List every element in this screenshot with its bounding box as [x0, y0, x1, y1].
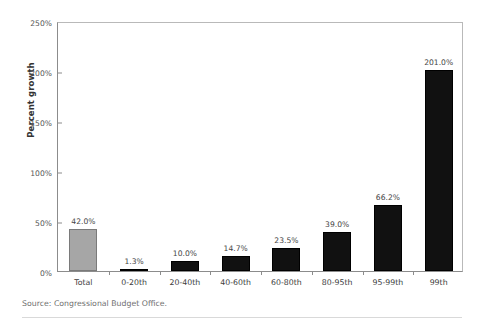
- x-tick-label: 60-80th: [271, 278, 302, 287]
- x-tick-label: 80-95th: [322, 278, 353, 287]
- bar-80-95th[interactable]: 39.0%: [323, 232, 351, 271]
- y-axis-title: Percent growth: [26, 40, 36, 160]
- bar-value-label: 39.0%: [325, 220, 349, 229]
- x-tick-label: Total: [74, 278, 92, 287]
- bottom-divider: [22, 317, 462, 318]
- bar-95-99th[interactable]: 66.2%: [374, 205, 402, 271]
- bar-20-40th[interactable]: 10.0%: [171, 261, 199, 271]
- source-note: Source: Congressional Budget Office.: [22, 299, 167, 308]
- x-tick-label: 99th: [430, 278, 448, 287]
- bar-60-80th[interactable]: 23.5%: [272, 248, 300, 272]
- y-tick-label: 150%: [30, 119, 52, 128]
- x-tick-mark: [109, 271, 110, 275]
- bar-0-20th[interactable]: 1.3%: [120, 269, 148, 271]
- bar-40-60th[interactable]: 14.7%: [222, 256, 250, 271]
- y-tick-label: 0%: [40, 269, 52, 278]
- bar-value-label: 1.3%: [124, 257, 143, 266]
- x-tick-label: 95-99th: [373, 278, 404, 287]
- y-tick-label: 50%: [35, 219, 52, 228]
- chart-figure: Percent growth 0%50%100%150%200%250% 42.…: [0, 0, 482, 321]
- plot-area: 0%50%100%150%200%250% 42.0%1.3%10.0%14.7…: [57, 22, 463, 272]
- bar-99th[interactable]: 201.0%: [425, 70, 453, 271]
- bar-group: 14.7%: [210, 23, 261, 271]
- x-tick-mark: [261, 271, 262, 275]
- bar-value-label: 23.5%: [274, 236, 298, 245]
- bar-series: 42.0%1.3%10.0%14.7%23.5%39.0%66.2%201.0%: [58, 23, 462, 271]
- x-tick-mark: [312, 271, 313, 275]
- bar-group: 66.2%: [363, 23, 414, 271]
- y-tick-label: 250%: [30, 19, 52, 28]
- bar-group: 10.0%: [160, 23, 211, 271]
- bar-value-label: 42.0%: [71, 217, 95, 226]
- bar-group: 1.3%: [109, 23, 160, 271]
- x-tick-label: 20-40th: [170, 278, 201, 287]
- x-tick-mark: [363, 271, 364, 275]
- bar-value-label: 201.0%: [424, 58, 453, 67]
- bar-value-label: 66.2%: [376, 193, 400, 202]
- bar-value-label: 14.7%: [224, 244, 248, 253]
- bar-group: 39.0%: [312, 23, 363, 271]
- bar-group: 42.0%: [58, 23, 109, 271]
- x-tick-label: 0-20th: [121, 278, 147, 287]
- x-tick-label: 40-60th: [220, 278, 251, 287]
- bar-total[interactable]: 42.0%: [69, 229, 97, 271]
- x-tick-mark: [413, 271, 414, 275]
- x-tick-mark: [210, 271, 211, 275]
- bar-group: 201.0%: [413, 23, 464, 271]
- bar-value-label: 10.0%: [173, 249, 197, 258]
- bar-group: 23.5%: [261, 23, 312, 271]
- x-tick-mark: [160, 271, 161, 275]
- y-tick-label: 100%: [30, 169, 52, 178]
- y-tick-label: 200%: [30, 69, 52, 78]
